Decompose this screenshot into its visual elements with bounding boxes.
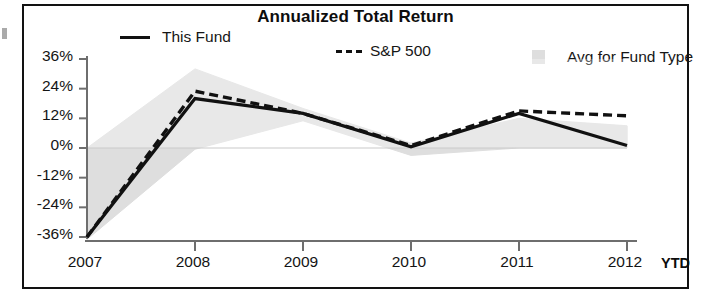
y-tick-label: -12% (37, 166, 73, 184)
y-tick-label: -36% (37, 225, 73, 243)
plot-area (24, 6, 687, 287)
y-tick-label: -24% (37, 195, 73, 213)
x-tick-label: 2008 (158, 253, 228, 271)
x-axis-ytd-label: YTD (661, 255, 690, 271)
y-tick-label: 24% (42, 77, 73, 95)
y-tick-label: 36% (42, 47, 73, 65)
x-tick-label: 2009 (266, 253, 336, 271)
x-tick-label: 2007 (50, 253, 120, 271)
chart-figure: Annualized Total Return This Fund S&P 50… (0, 0, 702, 299)
x-tick-label: 2012 (590, 253, 660, 271)
y-tick-label: 0% (51, 136, 73, 154)
y-tick-label: 12% (42, 106, 73, 124)
chart-frame: Annualized Total Return This Fund S&P 50… (22, 4, 689, 289)
x-tick-label: 2010 (374, 253, 444, 271)
scan-artifact (2, 28, 7, 39)
x-tick-label: 2011 (482, 253, 552, 271)
